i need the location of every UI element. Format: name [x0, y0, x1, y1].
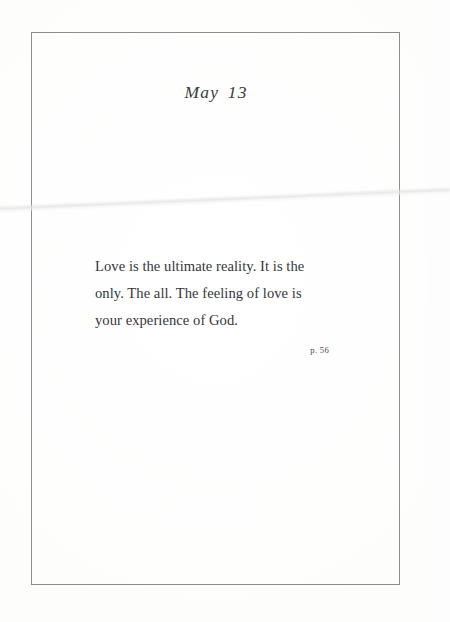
page-reference: p. 56	[95, 345, 329, 355]
quote-line: your experience of God.	[95, 307, 333, 334]
quote-text-block: Love is the ultimate reality. It is the …	[95, 253, 333, 334]
quote-line: Love is the ultimate reality. It is the	[95, 253, 333, 280]
date-heading: May 13	[32, 82, 400, 103]
quote-line: only. The all. The feeling of love is	[95, 280, 333, 307]
